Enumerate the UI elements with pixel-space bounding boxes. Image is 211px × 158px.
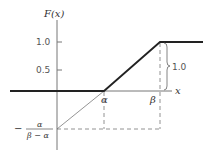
intercept-denominator: β − α (26, 131, 49, 140)
y-tick-label-0-5: 0.5 (36, 65, 50, 75)
intercept-numerator: α (37, 120, 43, 129)
x-axis-label: x (175, 85, 181, 96)
rise-brace (164, 43, 170, 90)
x-tick-alpha: α (101, 94, 108, 105)
cdf-chart: F(x) x 1.0 0.5 α β 1.0 − α β − α (0, 0, 211, 158)
intercept-sign: − (14, 123, 22, 134)
ramp-extension (57, 91, 104, 129)
y-tick-label-1: 1.0 (36, 37, 51, 47)
x-tick-beta: β (149, 94, 156, 105)
rise-label: 1.0 (172, 62, 187, 72)
y-axis-label: F(x) (43, 8, 64, 19)
